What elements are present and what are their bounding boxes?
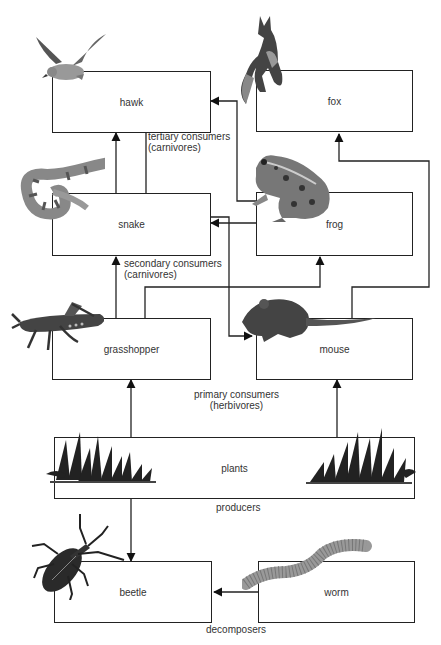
node-grasshopper-label: grasshopper <box>104 344 160 355</box>
node-mouse-label: mouse <box>319 344 349 355</box>
level-producers: producers <box>216 502 260 513</box>
level-tertiary: tertiary consumers (carnivores) <box>148 131 230 153</box>
mouse-icon <box>240 296 380 342</box>
worm-icon <box>242 538 374 590</box>
level-secondary-line2: (carnivores) <box>124 269 222 280</box>
level-primary-line2: (herbivores) <box>194 400 279 411</box>
node-fox-label: fox <box>328 96 341 107</box>
grass-right-icon <box>300 428 416 486</box>
level-primary-line1: primary consumers <box>194 389 279 400</box>
level-secondary-line1: secondary consumers <box>124 258 222 269</box>
snake-icon <box>15 152 105 224</box>
node-plants-label: plants <box>221 463 248 474</box>
node-snake-label: snake <box>118 219 145 230</box>
grass-left-icon <box>46 430 162 486</box>
level-tertiary-line2: (carnivores) <box>148 142 230 153</box>
level-tertiary-line1: tertiary consumers <box>148 131 230 142</box>
level-primary: primary consumers (herbivores) <box>194 389 279 411</box>
frog-icon <box>246 148 336 224</box>
level-secondary: secondary consumers (carnivores) <box>124 258 222 280</box>
hawk-icon <box>32 32 112 94</box>
level-decomposers: decomposers <box>206 624 266 635</box>
grasshopper-icon <box>10 300 104 356</box>
node-hawk-label: hawk <box>120 97 143 108</box>
fox-icon <box>238 12 308 112</box>
beetle-icon <box>28 514 128 600</box>
